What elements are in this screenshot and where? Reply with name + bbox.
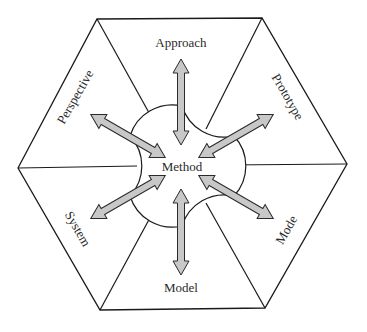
label-approach: Approach bbox=[155, 35, 207, 50]
method-hexagon-diagram: Approach Model Method Perspective Protot… bbox=[0, 0, 367, 332]
label-model: Model bbox=[164, 280, 198, 295]
label-method: Method bbox=[162, 159, 203, 174]
